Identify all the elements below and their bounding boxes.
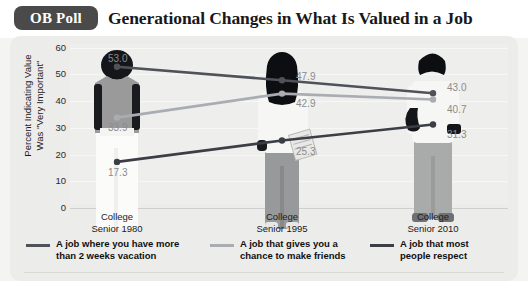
data-label-respect-1995: 25.3: [296, 146, 315, 157]
ob-poll-badge: OB Poll: [14, 6, 98, 30]
data-label-vacation-1980: 53.0: [108, 53, 127, 64]
header: OB Poll Generational Changes in What Is …: [0, 0, 528, 38]
data-label-vacation-1995: 47.9: [296, 71, 315, 82]
legend-label-respect: A job that most people respect: [400, 238, 469, 261]
data-label-friends-1980: 33.9: [108, 122, 127, 133]
page-title: Generational Changes in What Is Valued i…: [108, 8, 473, 29]
x-tick-1995: College Senior 1995: [227, 211, 337, 234]
x-tick-2010: College Senior 2010: [378, 211, 488, 234]
series-line-vacation: [117, 67, 433, 94]
series-line-respect: [117, 125, 433, 162]
chart-card: Percent Indicating Value Was "Very Impor…: [10, 36, 518, 281]
plot-area: Percent Indicating Value Was "Very Impor…: [10, 36, 518, 231]
series-markers-respect: [114, 121, 436, 165]
data-label-respect-2010: 31.3: [447, 129, 466, 140]
legend: A job where you have more than 2 weeks v…: [10, 232, 518, 281]
x-tick-1980: College Senior 1980: [62, 211, 172, 234]
legend-swatch-friends: [210, 244, 234, 247]
legend-swatch-vacation: [26, 244, 50, 247]
legend-divider: [24, 272, 504, 273]
series-line-friends: [117, 94, 433, 118]
data-line-layer: [10, 36, 518, 231]
data-label-friends-2010: 40.7: [447, 104, 466, 115]
data-label-respect-1980: 17.3: [108, 167, 127, 178]
bottom-strip: [0, 281, 528, 289]
poll-infographic: OB Poll Generational Changes in What Is …: [0, 0, 528, 289]
data-label-vacation-2010: 43.0: [447, 82, 466, 93]
data-label-friends-1995: 42.9: [296, 98, 315, 109]
legend-swatch-respect: [370, 244, 394, 247]
legend-label-friends: A job that gives you a chance to make fr…: [240, 238, 346, 261]
legend-label-vacation: A job where you have more than 2 weeks v…: [56, 238, 179, 261]
